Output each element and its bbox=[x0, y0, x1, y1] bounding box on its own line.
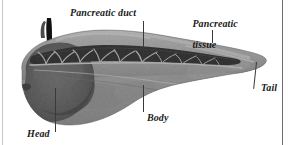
label-pancreatic-tissue: Pancreatic tissue bbox=[182, 8, 238, 61]
anatomy-figure: Pancreatic duct Pancreatic tissue Tail B… bbox=[0, 0, 291, 145]
label-pancreatic-tissue-line2: tissue bbox=[192, 39, 216, 50]
label-tail: Tail bbox=[261, 83, 277, 94]
leader-line-head bbox=[55, 88, 56, 132]
pancreas-specimen-image bbox=[0, 0, 291, 145]
label-body: Body bbox=[147, 113, 169, 124]
leader-line-body bbox=[143, 85, 144, 112]
label-pancreatic-tissue-line1: Pancreatic bbox=[192, 18, 237, 29]
label-head: Head bbox=[27, 129, 50, 140]
leader-line-pancreatic-duct bbox=[143, 21, 144, 49]
label-pancreatic-duct: Pancreatic duct bbox=[70, 8, 136, 19]
duct-stem-structure bbox=[41, 18, 52, 42]
